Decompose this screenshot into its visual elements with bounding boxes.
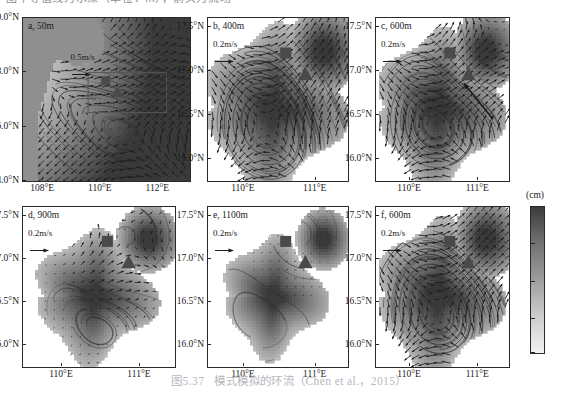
panel-b-ytick: 16.5°N — [177, 109, 204, 119]
colorbar-tickmark — [530, 352, 535, 353]
panel-d-xtickmark — [61, 363, 62, 367]
panel-f-ytickmark — [375, 344, 379, 345]
panel-b-xtick: 110°E — [231, 183, 255, 193]
panel-f-ytick: 16.5°N — [345, 296, 372, 306]
panel-a-xtickmark — [157, 177, 158, 181]
station-marker-square — [444, 236, 455, 247]
panel-d-xtickmark — [139, 363, 140, 367]
panel-c-xtickmark — [409, 177, 410, 181]
panel-d-ytickmark — [22, 301, 26, 302]
panel-e: e, 1100m0.2m/s17.5°N17.0°N16.5°N16.0°N11… — [207, 206, 347, 366]
panel-e-ytick: 16.5°N — [177, 296, 204, 306]
panel-a-ytick: 16.0°N — [0, 121, 19, 131]
panel-d-label: d, 900m — [28, 210, 59, 220]
panel-f-xtickmark — [409, 363, 410, 367]
colorbar-tickmark — [530, 206, 535, 207]
panel-a-vector-scale-label: 0.5m/s — [70, 52, 94, 62]
panel-b-xtick: 111°E — [303, 183, 326, 193]
panel-c-xtick: 111°E — [466, 183, 489, 193]
panel-d-ytickmark — [22, 258, 26, 259]
panel-c-ytick: 16.5°N — [345, 109, 372, 119]
panel-c-ytick: 17.5°N — [345, 21, 372, 31]
panel-b-ytick: 17.5°N — [177, 21, 204, 31]
panel-d-vector-scale-label: 0.2m/s — [28, 228, 52, 238]
panel-a-plot-area — [22, 17, 191, 182]
panel-a-ytick: 20.0°N — [0, 12, 19, 22]
panel-d-ytick: 17.5°N — [0, 210, 19, 220]
panel-b-ytickmark — [207, 70, 211, 71]
panel-f-xtickmark — [477, 363, 478, 367]
panel-a-xtickmark — [100, 177, 101, 181]
panel-b-ytick: 17.0°N — [177, 65, 204, 75]
panel-c-ytickmark — [375, 70, 379, 71]
panel-e-ytickmark — [207, 301, 211, 302]
panel-d-ytickmark — [22, 344, 26, 345]
panel-f-ytickmark — [375, 215, 379, 216]
panel-f: f, 600m0.2m/s17.5°N17.0°N16.5°N16.0°N110… — [375, 206, 508, 366]
panel-c-ytickmark — [375, 26, 379, 27]
panel-e-ytick: 16.0°N — [177, 339, 204, 349]
panel-f-ytickmark — [375, 258, 379, 259]
panel-a-label: a, 50m — [28, 21, 54, 31]
panel-e-label: e, 1100m — [213, 210, 248, 220]
panel-d-ytick: 17.0°N — [0, 253, 19, 263]
panel-a-ytickmark — [22, 71, 26, 72]
panel-c-vector-scale-label: 0.2m/s — [381, 39, 405, 49]
panel-a-xtick: 110°E — [88, 183, 112, 193]
panel-e-ytick: 17.5°N — [177, 210, 204, 220]
panel-a-ytickmark — [22, 17, 26, 18]
panel-c-ytick: 17.0°N — [345, 65, 372, 75]
panel-d: d, 900m0.2m/s17.5°N17.0°N16.5°N16.0°N110… — [22, 206, 174, 366]
panel-d-vector-scale-arrow — [30, 240, 50, 258]
panel-a-xtick: 112°E — [146, 183, 170, 193]
panel-a-ytick: 18.0°N — [0, 66, 19, 76]
colorbar-tickmark — [530, 318, 535, 319]
colorbar-tickmark — [530, 281, 535, 282]
panel-f-vector-scale-arrow — [383, 240, 403, 258]
panel-b-ytickmark — [207, 158, 211, 159]
panel-e-xtickmark — [315, 363, 316, 367]
panel-f-label: f, 600m — [381, 210, 411, 220]
panel-c-ytick: 16.0°N — [345, 153, 372, 163]
panel-c-vector-scale-arrow — [383, 51, 403, 69]
colorbar-tickmark — [530, 243, 535, 244]
panel-a-ytickmark — [22, 180, 26, 181]
panel-a-ytickmark — [22, 126, 26, 127]
cropped-header-label: 图中等值线为水深（单位：m），箭头为流场 — [6, 0, 231, 5]
figure-caption-text: 模式模拟的环流（Chen et al.，2015） — [214, 375, 407, 387]
station-marker-square — [102, 236, 113, 247]
panel-d-ytick: 16.0°N — [0, 339, 19, 349]
station-marker-square — [444, 48, 455, 59]
panel-a-ytick: 14.0°N — [0, 175, 19, 185]
cropped-header-text: 图中等值线为水深（单位：m），箭头为流场 — [0, 0, 578, 9]
panel-b-xtickmark — [315, 177, 316, 181]
panel-b-xtickmark — [243, 177, 244, 181]
panel-c-label: c, 600m — [381, 21, 412, 31]
panel-e-xtickmark — [243, 363, 244, 367]
panel-a-xtickmark — [42, 177, 43, 181]
panel-c-xtick: 110°E — [397, 183, 421, 193]
panel-b-vector-scale-label: 0.2m/s — [213, 39, 237, 49]
panel-c-xtickmark — [477, 177, 478, 181]
station-marker-square — [280, 48, 291, 59]
panel-a: a, 50m0.5m/s20.0°N18.0°N16.0°N14.0°N108°… — [22, 17, 189, 180]
panel-b: b, 400m0.2m/s17.5°N17.0°N16.5°N16.0°N110… — [207, 17, 347, 180]
panel-b-ytickmark — [207, 26, 211, 27]
station-marker-square — [101, 76, 110, 85]
figure-number: 图5.37 — [171, 375, 204, 387]
panel-f-ytickmark — [375, 301, 379, 302]
panel-c-ytickmark — [375, 158, 379, 159]
panel-f-ytick: 17.0°N — [345, 253, 372, 263]
panel-a-vector-scale-arrow — [72, 64, 92, 82]
panel-b-vector-scale-arrow — [215, 51, 235, 69]
figure-canvas: a, 50m0.5m/s20.0°N18.0°N16.0°N14.0°N108°… — [0, 9, 578, 369]
panel-e-vector-scale-arrow — [215, 240, 235, 258]
panel-e-ytickmark — [207, 344, 211, 345]
panel-e-ytickmark — [207, 258, 211, 259]
panel-e-ytickmark — [207, 215, 211, 216]
panel-a-xtick: 108°E — [30, 183, 54, 193]
panel-d-ytick: 16.5°N — [0, 296, 19, 306]
figure-caption: 图5.37模式模拟的环流（Chen et al.，2015） — [0, 372, 578, 388]
panel-e-ytick: 17.0°N — [177, 253, 204, 263]
panel-d-ytickmark — [22, 215, 26, 216]
